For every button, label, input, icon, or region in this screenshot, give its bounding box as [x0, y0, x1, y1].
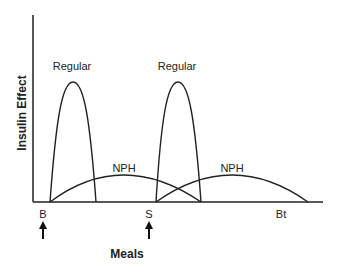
- tick-label-b: B: [39, 208, 46, 220]
- y-axis-title: Insulin Effect: [15, 75, 29, 150]
- x-axis-title: Meals: [110, 247, 144, 261]
- nph-label-1: NPH: [112, 162, 135, 174]
- arrow-up-icon-s: [145, 221, 153, 239]
- insulin-effect-chart: Regular Regular NPH NPH B S Bt Meals Ins…: [0, 0, 339, 271]
- tick-label-bt: Bt: [276, 208, 286, 220]
- regular-label-2: Regular: [158, 60, 197, 72]
- arrow-up-icon-b: [39, 221, 47, 239]
- nph-label-2: NPH: [220, 162, 243, 174]
- tick-label-s: S: [145, 208, 152, 220]
- regular-curve-1: [50, 82, 96, 202]
- nph-curve-2: [156, 175, 308, 202]
- regular-curve-2: [156, 82, 201, 202]
- regular-label-1: Regular: [53, 60, 92, 72]
